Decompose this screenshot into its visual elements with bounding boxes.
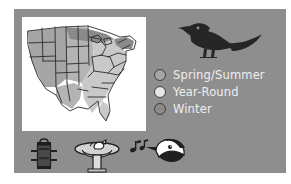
- range-map: [22, 17, 146, 131]
- map-region-shading: [28, 27, 134, 121]
- tube-bird-feeder-icon: [26, 133, 62, 173]
- legend-item-spring-summer[interactable]: Spring/Summer: [154, 67, 286, 83]
- range-legend: Spring/Summer Year-Round Winter: [154, 67, 286, 118]
- birdbath-icon: [72, 137, 122, 173]
- bird-attraction-icon-strip: [14, 133, 286, 173]
- figure-root: Spring/Summer Year-Round Winter: [0, 0, 291, 184]
- legend-swatch-year-round: [154, 86, 166, 98]
- infographic-panel: Spring/Summer Year-Round Winter: [14, 9, 286, 173]
- bird-eye: [197, 27, 200, 30]
- bird-head: [146, 139, 185, 162]
- legend-swatch-winter: [154, 103, 166, 115]
- legend-swatch-spring-summer: [154, 69, 166, 81]
- bird-song-icon: [126, 135, 188, 169]
- legend-label-spring-summer: Spring/Summer: [173, 69, 265, 82]
- grackle-silhouette-icon: [176, 17, 264, 65]
- legend-label-year-round: Year-Round: [173, 86, 239, 99]
- music-notes: [129, 139, 148, 153]
- legend-item-winter[interactable]: Winter: [154, 101, 286, 117]
- legend-label-winter: Winter: [173, 103, 212, 116]
- legend-item-year-round[interactable]: Year-Round: [154, 84, 286, 100]
